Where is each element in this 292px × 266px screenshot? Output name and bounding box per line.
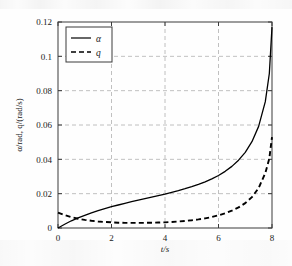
x-tick-label: 6 (216, 233, 221, 243)
y-axis-tick-labels: 00.020.040.060.080.10.12 (36, 17, 52, 233)
y-tick-label: 0.04 (36, 155, 52, 165)
legend-label-q: q (96, 48, 101, 58)
x-tick-label: 2 (109, 233, 114, 243)
line-chart: 00.020.040.060.080.10.12 02468 t/s α/rad… (0, 0, 292, 266)
x-tick-label: 4 (163, 233, 168, 243)
x-axis-tick-labels: 02468 (56, 233, 275, 243)
chart-legend: α q (66, 27, 112, 62)
y-tick-label: 0 (48, 223, 53, 233)
x-axis-title: t/s (161, 244, 170, 254)
x-tick-label: 0 (56, 233, 61, 243)
chart-figure: 00.020.040.060.080.10.12 02468 t/s α/rad… (0, 0, 292, 266)
y-tick-label: 0.1 (41, 52, 52, 62)
y-tick-label: 0.06 (36, 120, 52, 130)
x-tick-label: 8 (270, 233, 275, 243)
y-tick-label: 0.08 (36, 86, 52, 96)
y-axis-title: α/rad, q/(rad/s) (14, 98, 24, 152)
y-tick-label: 0.02 (36, 189, 52, 199)
y-tick-label: 0.12 (36, 17, 52, 27)
